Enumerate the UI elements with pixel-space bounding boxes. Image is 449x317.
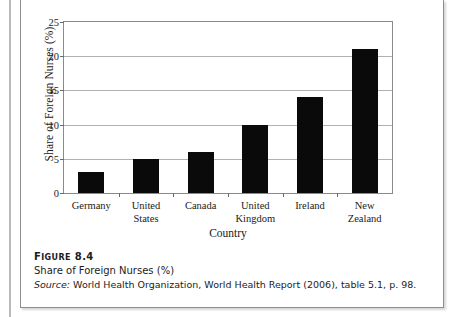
caption-title: Share of Foreign Nurses (%) bbox=[34, 265, 434, 276]
y-tick-mark bbox=[60, 56, 64, 57]
source-label: Source: bbox=[34, 279, 70, 290]
x-tick-mark bbox=[283, 193, 284, 197]
y-tick-label: 0 bbox=[54, 188, 59, 199]
plot-area: 0510152025GermanyUnited StatesCanadaUnit… bbox=[63, 21, 393, 194]
x-tick-label: Ireland bbox=[283, 200, 338, 213]
figure-word-rest: IGURE bbox=[41, 253, 71, 262]
bar bbox=[78, 172, 104, 193]
x-tick-label: Germany bbox=[64, 200, 119, 213]
x-tick-mark bbox=[337, 193, 338, 197]
source-text: World Health Organization, World Health … bbox=[70, 279, 416, 290]
x-tick-mark bbox=[173, 193, 174, 197]
x-tick-label: Canada bbox=[173, 200, 228, 213]
bar bbox=[242, 125, 268, 193]
figure-number-text: 8.4 bbox=[75, 251, 94, 262]
y-tick-mark bbox=[60, 90, 64, 91]
bar bbox=[297, 97, 323, 193]
x-axis-title: Country bbox=[63, 227, 393, 239]
gridline bbox=[64, 159, 392, 160]
y-tick-label: 15 bbox=[49, 85, 60, 96]
y-tick-mark bbox=[60, 159, 64, 160]
caption-source: Source: World Health Organization, World… bbox=[34, 279, 434, 290]
x-tick-label: United Kingdom bbox=[228, 200, 283, 225]
y-tick-label: 10 bbox=[49, 119, 60, 130]
figure-number-label: FIGURE 8.4 bbox=[34, 251, 434, 262]
figure-container: Share of Foreign Nurses (%) 0510152025Ge… bbox=[20, 0, 444, 308]
y-tick-mark bbox=[60, 22, 64, 23]
y-tick-mark bbox=[60, 193, 64, 194]
page-gutter-line bbox=[9, 0, 11, 317]
figure-caption: FIGURE 8.4 Share of Foreign Nurses (%) S… bbox=[34, 251, 434, 290]
y-tick-label: 5 bbox=[54, 153, 59, 164]
bar bbox=[133, 159, 159, 193]
x-tick-label: New Zealand bbox=[337, 200, 392, 225]
x-tick-label: United States bbox=[119, 200, 174, 225]
y-tick-label: 25 bbox=[49, 17, 60, 28]
bar bbox=[188, 152, 214, 193]
gridline bbox=[64, 125, 392, 126]
y-tick-label: 20 bbox=[49, 51, 60, 62]
chart-plot-wrapper: Share of Foreign Nurses (%) 0510152025Ge… bbox=[21, 0, 445, 240]
gridline bbox=[64, 90, 392, 91]
x-tick-mark bbox=[119, 193, 120, 197]
gridline bbox=[64, 56, 392, 57]
x-tick-mark bbox=[228, 193, 229, 197]
y-tick-mark bbox=[60, 125, 64, 126]
bar bbox=[352, 49, 378, 193]
